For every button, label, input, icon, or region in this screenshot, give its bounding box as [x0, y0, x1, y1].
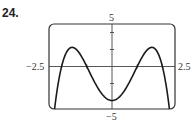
x-max-label: 2.5 — [178, 62, 191, 72]
y-max-label: 5 — [109, 13, 114, 23]
y-min-label: −5 — [106, 112, 117, 122]
x-min-label: −2.5 — [26, 62, 44, 72]
